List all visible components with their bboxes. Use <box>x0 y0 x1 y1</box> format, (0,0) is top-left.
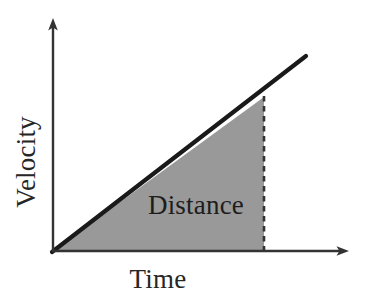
velocity-time-graph-figure: Velocity Time Distance <box>0 0 366 305</box>
plot-canvas <box>0 0 366 305</box>
x-axis-label: Time <box>130 266 187 293</box>
y-axis-label: Velocity <box>13 116 40 208</box>
distance-area-label: Distance <box>148 192 244 219</box>
